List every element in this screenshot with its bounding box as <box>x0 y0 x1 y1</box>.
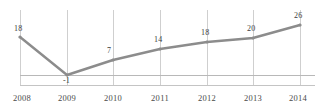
tick-label-2008: 2008 <box>13 94 31 103</box>
value-label-2009: -1 <box>63 77 70 85</box>
tick-label-2014: 2014 <box>289 94 307 103</box>
line-chart: 18-1714182026 20082009201020112012201320… <box>0 0 315 109</box>
data-point-2013 <box>251 36 254 39</box>
tick-label-2013: 2013 <box>244 94 262 103</box>
value-label-2011: 14 <box>154 36 162 44</box>
plot-area: 18-1714182026 <box>0 0 315 90</box>
data-point-2010 <box>111 58 114 61</box>
value-label-2012: 18 <box>201 29 209 37</box>
data-point-2008 <box>18 35 21 38</box>
data-point-2014 <box>298 23 301 26</box>
tick-label-2011: 2011 <box>151 94 169 103</box>
data-point-2011 <box>158 47 161 50</box>
x-axis-tick-labels: 2008200920102011201220132014 <box>0 92 315 109</box>
value-label-2008: 18 <box>14 25 22 33</box>
tick-label-2012: 2012 <box>198 94 216 103</box>
tick-label-2009: 2009 <box>58 94 76 103</box>
value-label-2010: 7 <box>107 47 111 55</box>
chart-canvas <box>0 0 315 90</box>
data-point-2012 <box>205 40 208 43</box>
value-label-2014: 26 <box>294 12 302 20</box>
tick-label-2010: 2010 <box>104 94 122 103</box>
value-label-2013: 20 <box>247 25 255 33</box>
